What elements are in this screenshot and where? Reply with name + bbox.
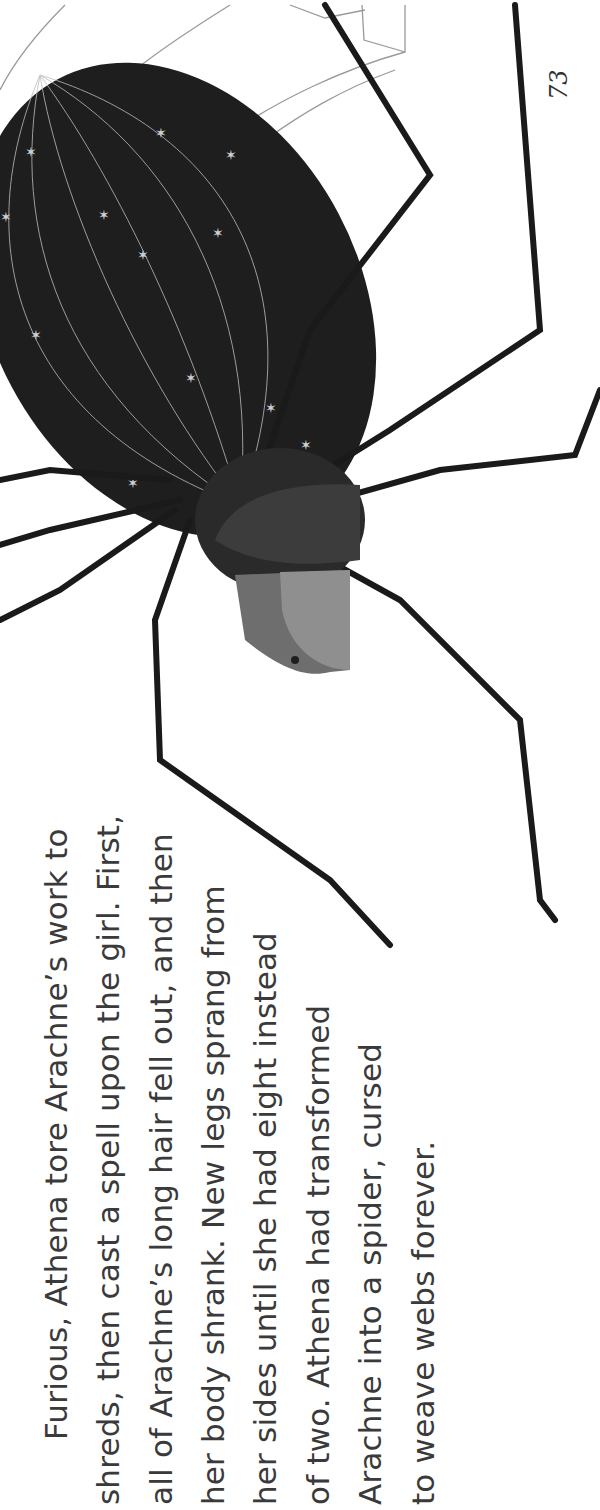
paragraph-line: to weave webs forever. bbox=[405, 1141, 441, 1505]
paragraph-line: Furious, Athena tore Arachne’s work to bbox=[38, 828, 74, 1440]
paragraph-line: all of Arachne’s long hair fell out, and… bbox=[143, 833, 179, 1505]
paragraph-line: Arachne into a spider, cursed bbox=[352, 1043, 388, 1505]
paragraph-line: shreds, then cast a spell upon the girl.… bbox=[90, 815, 126, 1505]
story-paragraph: Furious, Athena tore Arachne’s work to s… bbox=[0, 0, 600, 1510]
paragraph-line: her body shrank. New legs sprang from bbox=[195, 885, 231, 1505]
paragraph-line: her sides until she had eight instead bbox=[247, 932, 283, 1505]
paragraph-line: of two. Athena had transformed bbox=[300, 1005, 336, 1505]
